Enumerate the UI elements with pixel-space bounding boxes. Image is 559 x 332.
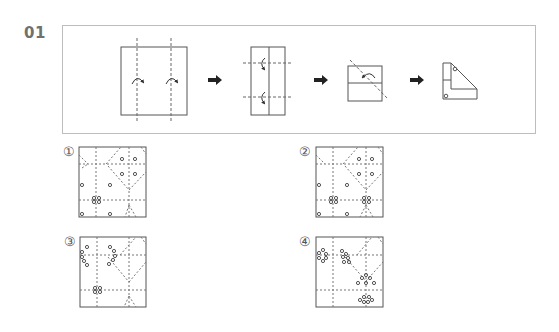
step-2 <box>243 47 293 115</box>
arrow-icon <box>208 75 222 85</box>
option-4-figure[interactable] <box>316 237 383 307</box>
step-1 <box>121 38 187 122</box>
folding-diagram <box>0 0 559 332</box>
option-3-figure[interactable] <box>80 237 146 307</box>
option-3-label[interactable]: ③ <box>64 235 76 249</box>
arrow-icon <box>410 75 424 85</box>
option-2-figure[interactable] <box>316 147 383 217</box>
arrow-icon <box>314 75 328 85</box>
step-4 <box>443 63 477 99</box>
option-1-figure[interactable] <box>79 147 146 217</box>
option-2-label[interactable]: ② <box>299 145 311 159</box>
step-3 <box>348 60 388 101</box>
option-4-label[interactable]: ④ <box>299 235 311 249</box>
option-1-label[interactable]: ① <box>63 145 75 159</box>
